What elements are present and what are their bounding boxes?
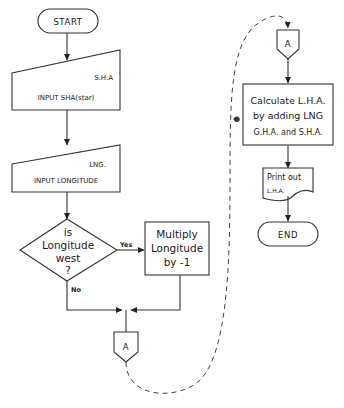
multiply-line-3: by -1 xyxy=(164,256,191,268)
print-lha-document: Print out L.H.A. xyxy=(263,168,313,201)
decision-is-longitude-west: is Longitude west ? xyxy=(20,219,117,281)
edge-multiply-to-join xyxy=(131,275,180,310)
connector-out-label: A xyxy=(123,342,129,352)
no-label: No xyxy=(71,286,81,294)
multiply-line-2: Longitude xyxy=(151,242,203,254)
dashed-link-mark xyxy=(234,117,239,121)
decision-line-1: is xyxy=(64,226,72,238)
calculate-line-2: by adding LNG xyxy=(253,110,323,121)
end-terminal: END xyxy=(258,222,318,246)
start-label: START xyxy=(53,17,82,27)
off-page-connector-out: A xyxy=(114,332,138,362)
print-line-1: Print out xyxy=(267,173,301,182)
print-line-2: L.H.A. xyxy=(267,187,285,194)
decision-line-3: west xyxy=(56,252,81,264)
calculate-line-3: G.H.A. and S.H.A. xyxy=(253,128,322,137)
input-sha-tag: S.H.A xyxy=(94,74,113,82)
input-longitude-label: INPUT LONGITUDE xyxy=(34,177,98,185)
input-sha-node: S.H.A INPUT SHA(star) xyxy=(12,50,120,110)
input-sha-label: INPUT SHA(star) xyxy=(38,94,95,102)
input-longitude-node: LNG. INPUT LONGITUDE xyxy=(12,145,120,192)
multiply-line-1: Multiply xyxy=(156,228,197,240)
decision-line-4: ? xyxy=(65,264,71,276)
multiply-process: Multiply Longitude by -1 xyxy=(145,222,209,275)
input-longitude-tag: LNG. xyxy=(89,161,106,169)
connector-in-label: A xyxy=(285,39,291,49)
end-label: END xyxy=(278,230,298,240)
decision-line-2: Longitude xyxy=(42,239,94,251)
calculate-line-1: Calculate L.H.A. xyxy=(250,95,325,106)
off-page-connector-in: A xyxy=(277,30,299,59)
calculate-lha-process: Calculate L.H.A. by adding LNG G.H.A. an… xyxy=(243,84,333,145)
start-terminal: START xyxy=(38,9,98,33)
edge-connector-link-dashed xyxy=(126,16,288,393)
yes-label: Yes xyxy=(119,241,133,249)
flowchart-canvas: START S.H.A INPUT SHA(star) LNG. INPUT L… xyxy=(0,0,344,408)
